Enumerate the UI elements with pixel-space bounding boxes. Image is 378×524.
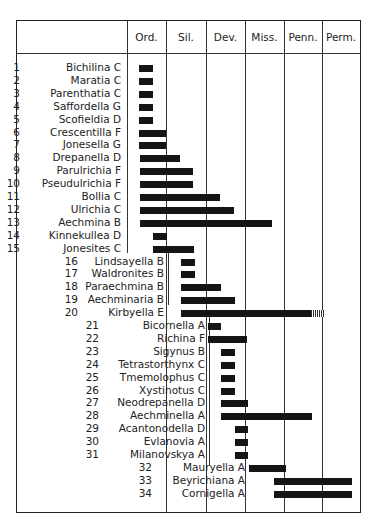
range-bar xyxy=(181,259,195,266)
row-number: 32 xyxy=(136,461,152,473)
genus-label: Scofieldia D xyxy=(59,113,121,125)
genus-label: Crescentilla F xyxy=(50,126,121,138)
genus-label: Bicornella A xyxy=(143,319,205,331)
genus-label: Ulrichia C xyxy=(71,203,121,215)
row-number: 5 xyxy=(4,113,20,125)
column-header-ord: Ord. xyxy=(127,20,166,53)
column-header-sil: Sil. xyxy=(166,20,206,53)
row-number: 19 xyxy=(62,293,78,305)
row-number: 11 xyxy=(4,190,20,202)
range-bar xyxy=(274,491,352,498)
row-number: 24 xyxy=(83,358,99,370)
range-bar xyxy=(221,375,235,382)
row-number: 34 xyxy=(136,487,152,499)
genus-label: Richina F xyxy=(157,332,205,344)
column-divider xyxy=(284,20,285,513)
genus-label: Parulrichia F xyxy=(56,164,121,176)
row-number: 21 xyxy=(83,319,99,331)
range-bar xyxy=(140,181,193,188)
range-bar xyxy=(140,194,220,201)
label-group-divider xyxy=(168,253,169,305)
range-bar xyxy=(208,336,247,343)
range-bar xyxy=(274,478,352,485)
genus-label: Aechminaria B xyxy=(88,293,164,305)
row-number: 15 xyxy=(4,242,20,254)
row-number: 16 xyxy=(62,255,78,267)
row-number: 6 xyxy=(4,126,20,138)
genus-label: Acantonodella D xyxy=(119,422,205,434)
genus-label: Parenthatia C xyxy=(50,87,121,99)
row-number: 8 xyxy=(4,151,20,163)
range-bar xyxy=(221,349,235,356)
column-divider xyxy=(322,20,323,513)
column-header-penn: Penn. xyxy=(284,20,322,53)
row-number: 14 xyxy=(4,229,20,241)
range-bar xyxy=(181,310,311,317)
genus-label: Lindsayella B xyxy=(95,255,164,267)
genus-label: Kirbyella E xyxy=(108,306,164,318)
genus-label: Aechmina B xyxy=(58,216,121,228)
row-number: 3 xyxy=(4,87,20,99)
row-number: 10 xyxy=(4,177,20,189)
row-number: 25 xyxy=(83,371,99,383)
range-bar xyxy=(181,284,221,291)
row-number: 33 xyxy=(136,474,152,486)
genus-label: Bollia C xyxy=(82,190,121,202)
range-bar xyxy=(139,78,153,85)
genus-label: Drepanella D xyxy=(52,151,121,163)
column-header-perm: Perm. xyxy=(322,20,360,53)
range-bar xyxy=(221,388,235,395)
range-bar xyxy=(139,130,166,137)
row-number: 4 xyxy=(4,100,20,112)
genus-label: Cornigella A xyxy=(182,487,245,499)
row-number: 13 xyxy=(4,216,20,228)
range-bar xyxy=(140,220,272,227)
genus-label: Jonesites C xyxy=(63,242,121,254)
range-bar xyxy=(153,233,167,240)
range-bar xyxy=(181,271,195,278)
column-divider xyxy=(206,20,207,513)
row-number: 9 xyxy=(4,164,20,176)
uncertain-range-hatch xyxy=(311,310,324,317)
row-number: 28 xyxy=(83,409,99,421)
range-bar xyxy=(139,104,153,111)
genus-label: Mauryella A xyxy=(183,461,245,473)
genus-label: Waldronites B xyxy=(92,267,164,279)
range-bar xyxy=(221,413,312,420)
column-header-miss: Miss. xyxy=(245,20,284,53)
range-bar xyxy=(140,155,180,162)
row-number: 27 xyxy=(83,396,99,408)
range-bar xyxy=(221,362,235,369)
genus-label: Xystinotus C xyxy=(139,384,205,396)
row-number: 31 xyxy=(83,448,99,460)
column-divider xyxy=(127,20,128,253)
genus-label: Milanovskya A xyxy=(130,448,205,460)
row-number: 18 xyxy=(62,280,78,292)
genus-label: Beyrichiana A xyxy=(172,474,245,486)
row-number: 29 xyxy=(83,422,99,434)
range-bar xyxy=(140,168,193,175)
range-bar xyxy=(139,65,153,72)
range-bar xyxy=(235,426,248,433)
row-number: 23 xyxy=(83,345,99,357)
range-bar xyxy=(235,452,248,459)
row-number: 26 xyxy=(83,384,99,396)
genus-label: Bichilina C xyxy=(66,61,121,73)
row-number: 1 xyxy=(4,61,20,73)
range-bar xyxy=(181,297,235,304)
range-bar xyxy=(221,400,248,407)
row-number: 7 xyxy=(4,138,20,150)
genus-label: Aechminella A xyxy=(130,409,205,421)
genus-label: Maratia C xyxy=(71,74,121,86)
range-bar xyxy=(139,142,166,149)
column-header-dev: Dev. xyxy=(206,20,245,53)
header-divider xyxy=(16,53,361,54)
genus-label: Paraechmina B xyxy=(85,280,164,292)
range-bar xyxy=(249,465,286,472)
genus-label: Kinnekullea D xyxy=(49,229,121,241)
genus-label: Jonesella G xyxy=(63,138,121,150)
range-bar xyxy=(139,117,153,124)
row-number: 30 xyxy=(83,435,99,447)
range-bar xyxy=(139,91,153,98)
row-number: 12 xyxy=(4,203,20,215)
